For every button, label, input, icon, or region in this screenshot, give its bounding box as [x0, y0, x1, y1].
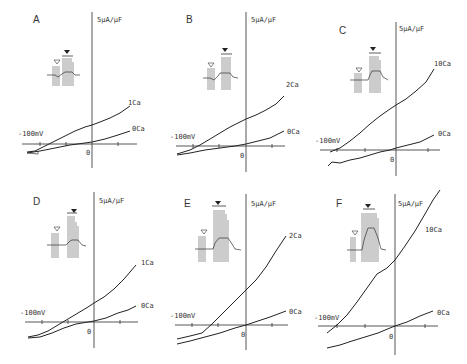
- panel-d: D 5μA/μF -100mV 0 1Ca 0Ca: [20, 192, 154, 348]
- zero-label: 0: [87, 328, 91, 336]
- y-unit-label: 5μA/μF: [399, 25, 424, 33]
- open-triangle-icon: [208, 63, 214, 67]
- filled-triangle-icon: [222, 48, 228, 52]
- series-label-hi: 2Ca: [286, 81, 299, 89]
- x-ref-label: -100mV: [314, 314, 340, 322]
- open-triangle-icon: [54, 227, 60, 231]
- voltage-protocol-inset: [47, 209, 86, 258]
- filled-triangle-icon: [64, 50, 70, 54]
- curve-2ca: [177, 236, 286, 339]
- zero-label: 0: [389, 333, 393, 341]
- panel-letter: C: [339, 25, 346, 36]
- series-label-hi: 1Ca: [141, 259, 154, 267]
- series-label-hi: 2Ca: [289, 232, 302, 240]
- series-label-lo: 0Ca: [287, 128, 300, 136]
- y-unit-label: 5μA/μF: [99, 197, 124, 205]
- panel-c: C 5μA/μF -100mV 0 10Ca 0Ca: [315, 22, 451, 176]
- filled-triangle-icon: [215, 201, 221, 205]
- open-triangle-icon: [54, 60, 60, 64]
- zero-label: 0: [86, 149, 90, 157]
- panel-letter: E: [184, 198, 191, 209]
- open-triangle-icon: [201, 230, 207, 234]
- y-unit-label: 5μA/μF: [398, 200, 423, 208]
- y-unit-label: 5μA/μF: [97, 16, 122, 24]
- filled-triangle-icon: [370, 47, 376, 51]
- series-label-lo: 0Ca: [132, 125, 145, 133]
- panel-letter: D: [33, 196, 40, 207]
- open-triangle-icon: [356, 68, 362, 72]
- x-ref-label: -100mV: [315, 137, 341, 145]
- panel-letter: F: [336, 198, 342, 209]
- voltage-protocol-inset: [203, 48, 238, 90]
- curve-10ca: [330, 69, 434, 152]
- curve-0ca: [328, 135, 434, 166]
- panel-f: F 5μA/μF -100mV 0 10Ca 0Ca: [314, 190, 450, 355]
- series-label-lo: 0Ca: [289, 308, 302, 316]
- panel-a: A 5μA/μF -100mV 0 1Ca 0Ca: [18, 12, 145, 168]
- figure-iv-curves: A 5μA/μF -100mV 0 1Ca 0Ca B 5μA/μF -10: [0, 0, 467, 364]
- x-ref-label: -100mV: [170, 133, 196, 141]
- voltage-protocol-inset: [47, 50, 80, 86]
- zero-label: 0: [390, 156, 394, 164]
- zero-label: 0: [241, 331, 245, 339]
- panel-b: B 5μA/μF -100mV 0 2Ca 0Ca: [170, 12, 300, 172]
- x-ref-label: -100mV: [170, 312, 196, 320]
- voltage-protocol-inset: [347, 204, 386, 262]
- series-label-hi: 10Ca: [425, 226, 442, 234]
- panel-letter: A: [33, 14, 40, 25]
- series-label-hi: 1Ca: [128, 99, 141, 107]
- series-label-lo: 0Ca: [438, 130, 451, 138]
- curve-1ca: [27, 106, 130, 152]
- open-triangle-icon: [352, 231, 358, 235]
- curve-0ca: [327, 311, 433, 348]
- filled-triangle-icon: [71, 209, 77, 213]
- panel-e: E 5μA/μF -100mV 0 2Ca 0Ca: [170, 194, 302, 350]
- voltage-protocol-inset: [350, 47, 388, 93]
- series-label-lo: 0Ca: [141, 302, 154, 310]
- curve-10ca: [327, 190, 440, 333]
- x-ref-label: -100mV: [18, 130, 44, 138]
- series-label-hi: 10Ca: [434, 60, 451, 68]
- x-ref-label: -100mV: [20, 309, 46, 317]
- y-unit-label: 5μA/μF: [251, 16, 276, 24]
- series-label-lo: 0Ca: [437, 309, 450, 317]
- voltage-protocol-inset: [195, 201, 241, 262]
- curve-1ca: [28, 265, 136, 337]
- y-unit-label: 5μA/μF: [251, 200, 276, 208]
- filled-triangle-icon: [365, 204, 371, 208]
- panel-letter: B: [186, 14, 193, 25]
- zero-label: 0: [240, 152, 244, 160]
